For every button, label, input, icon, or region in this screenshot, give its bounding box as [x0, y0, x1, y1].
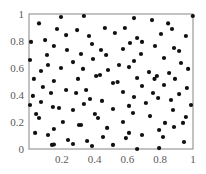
x-tick-label: 0.6 [121, 153, 135, 165]
data-point [184, 115, 188, 119]
data-point [172, 125, 176, 129]
data-point [34, 112, 38, 116]
data-point [159, 32, 163, 36]
data-point [135, 76, 139, 80]
data-point [123, 26, 127, 30]
y-axis-tick-labels: 00.20.40.60.81 [10, 8, 24, 155]
data-point [59, 66, 63, 70]
data-point [82, 102, 86, 106]
data-point [113, 31, 117, 35]
data-point [111, 107, 115, 111]
data-point [101, 135, 105, 139]
data-point [121, 90, 125, 94]
data-point [71, 108, 75, 112]
data-point [104, 53, 108, 57]
data-point [74, 91, 78, 95]
x-tick-label: 0.4 [88, 153, 102, 165]
data-point [153, 44, 157, 48]
data-point [65, 48, 69, 52]
data-point [191, 14, 195, 18]
data-point [98, 73, 102, 77]
data-point [31, 94, 35, 98]
data-point [139, 52, 143, 56]
data-point [93, 112, 97, 116]
data-point [157, 146, 161, 150]
data-point [177, 92, 181, 96]
data-point [59, 15, 63, 19]
y-tick-label: 0.6 [10, 62, 24, 74]
data-point [162, 56, 166, 60]
data-point [148, 114, 152, 118]
data-point [37, 116, 41, 120]
data-point [99, 48, 103, 52]
data-point [116, 80, 120, 84]
data-point [37, 21, 41, 25]
data-point [169, 98, 173, 102]
data-point [61, 120, 65, 124]
data-point [121, 120, 125, 124]
data-point [150, 18, 154, 22]
data-point [173, 77, 177, 81]
data-point [52, 79, 56, 83]
data-point [51, 105, 55, 109]
data-point [140, 84, 144, 88]
x-tick-label: 1 [190, 153, 196, 165]
data-point [128, 41, 132, 45]
data-point [127, 104, 131, 108]
data-point [88, 97, 92, 101]
data-point [66, 138, 70, 142]
data-point [189, 103, 193, 107]
data-point [184, 34, 188, 38]
x-tick-label: 0.2 [55, 153, 69, 165]
data-point [55, 27, 59, 31]
data-point [144, 101, 148, 105]
data-point [28, 58, 32, 62]
data-point [127, 65, 131, 69]
data-point [96, 116, 100, 120]
data-point [84, 88, 88, 92]
data-point [171, 108, 175, 112]
data-point [172, 46, 176, 50]
y-tick-label: 0.4 [10, 89, 24, 101]
data-point [45, 53, 49, 57]
data-point [156, 96, 160, 100]
data-point [81, 67, 85, 71]
data-point [132, 95, 136, 99]
data-point [163, 121, 167, 125]
x-tick-label: 0.8 [153, 153, 167, 165]
data-point [179, 61, 183, 65]
data-point [100, 99, 104, 103]
data-point [52, 142, 56, 146]
data-point [75, 28, 79, 32]
data-point [185, 86, 189, 90]
data-point [76, 77, 80, 81]
scatter-points [28, 14, 195, 151]
data-point [87, 34, 91, 38]
data-point [33, 131, 37, 135]
data-point [152, 77, 156, 81]
y-tick-label: 0.2 [10, 116, 24, 128]
x-axis-tick-labels: 0.20.40.60.81 [55, 153, 196, 165]
data-point [46, 63, 50, 67]
data-point [157, 128, 161, 132]
data-point [131, 111, 135, 115]
data-point [85, 139, 89, 143]
data-point [117, 63, 121, 67]
data-point [140, 133, 144, 137]
data-point [151, 91, 155, 95]
data-point [111, 143, 115, 147]
data-point [29, 40, 33, 44]
data-point [39, 100, 43, 104]
data-point [127, 131, 131, 135]
data-point [106, 68, 110, 72]
data-point [135, 147, 139, 151]
data-point [167, 71, 171, 75]
data-point [90, 144, 94, 148]
data-point [79, 52, 83, 56]
data-point [64, 88, 68, 92]
data-point [79, 123, 83, 127]
data-point [52, 44, 56, 48]
data-point [71, 142, 75, 146]
data-point [41, 85, 45, 89]
data-point [135, 36, 139, 40]
